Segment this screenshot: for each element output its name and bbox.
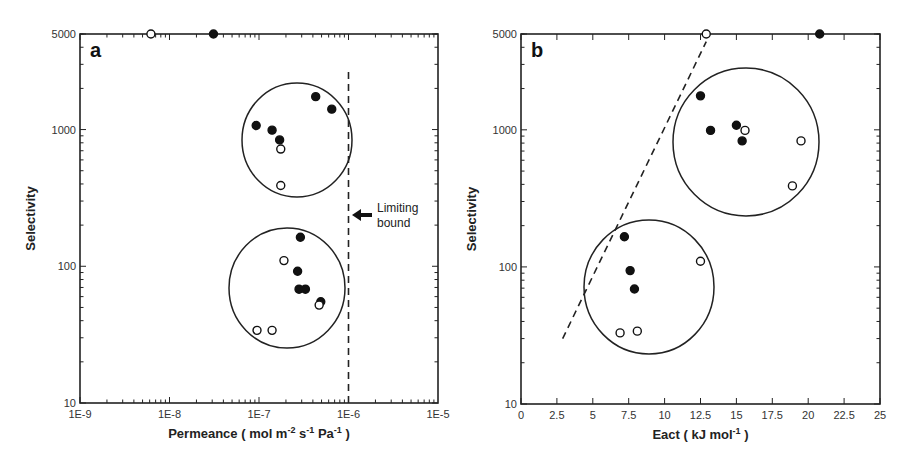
x-tick-label: 1E-7	[247, 408, 270, 420]
filled-data-point	[276, 136, 284, 144]
filled-data-point	[620, 233, 628, 241]
y-tick-label: 100	[499, 261, 517, 273]
x-tick-label: 2.5	[549, 409, 564, 421]
y-tick-label: 5000	[493, 28, 517, 40]
filled-data-point	[697, 92, 705, 100]
filled-data-point	[816, 30, 824, 38]
filled-data-point	[328, 105, 336, 113]
x-axis-title-part: s	[295, 426, 306, 441]
x-tick-label: 20	[802, 409, 814, 421]
cluster-circle	[229, 228, 345, 348]
annotation-limiting: Limiting	[377, 201, 418, 215]
x-axis-title-part: Permeance ( mol m	[168, 426, 287, 441]
open-data-point	[797, 137, 805, 145]
filled-data-point	[312, 93, 320, 101]
cluster-circle	[584, 220, 714, 354]
open-data-point	[633, 327, 641, 335]
x-tick-label: 5	[590, 409, 596, 421]
x-tick-label: 22.5	[833, 409, 854, 421]
x-tick-label: 12.5	[690, 409, 711, 421]
plot-frame	[521, 34, 880, 404]
filled-data-point	[268, 126, 276, 134]
x-tick-label: 17.5	[762, 409, 783, 421]
x-tick-label: 1E-8	[158, 408, 181, 420]
y-axis-title: Selectivity	[464, 186, 479, 251]
figure: 10100100050001E-91E-81E-71E-61E-5aSelect…	[0, 0, 911, 475]
filled-data-point	[738, 137, 746, 145]
y-tick-label: 100	[58, 260, 76, 272]
x-tick-label: 1E-5	[426, 408, 449, 420]
open-data-point	[277, 181, 285, 189]
filled-data-point	[732, 121, 740, 129]
y-tick-label: 5000	[52, 28, 76, 40]
x-tick-label: 0	[518, 409, 524, 421]
panel-letter: a	[90, 39, 102, 61]
open-data-point	[788, 182, 796, 190]
x-axis-title-sup: -1	[306, 425, 314, 435]
x-tick-label: 10	[658, 409, 670, 421]
open-data-point	[253, 326, 261, 334]
open-data-point	[315, 301, 323, 309]
arrow-head-icon	[352, 209, 361, 221]
panel-a-plot: 10100100050001E-91E-81E-71E-61E-5aSelect…	[23, 28, 450, 441]
annotation-bound: bound	[377, 216, 410, 230]
open-data-point	[697, 257, 705, 265]
filled-data-point	[301, 285, 309, 293]
x-tick-label: 1E-9	[68, 408, 91, 420]
x-axis-title: Permeance ( mol m-2 s-1 Pa-1 )	[168, 425, 350, 441]
cluster-circle	[242, 83, 352, 197]
x-tick-label: 7.5	[621, 409, 636, 421]
x-axis-title-sup: -1	[733, 426, 741, 436]
open-data-point	[616, 329, 624, 337]
panel-letter: b	[531, 39, 543, 61]
y-axis-title: Selectivity	[23, 186, 38, 251]
x-axis-title-part: )	[342, 426, 350, 441]
y-tick-label: 1000	[493, 124, 517, 136]
x-axis-title-part: )	[741, 427, 749, 442]
filled-data-point	[209, 30, 217, 38]
x-tick-label: 1E-6	[337, 408, 360, 420]
x-axis-title: Eact ( kJ mol-1 )	[652, 426, 748, 442]
filled-data-point	[296, 233, 304, 241]
open-data-point	[741, 126, 749, 134]
open-data-point	[277, 145, 285, 153]
open-data-point	[280, 257, 288, 265]
filled-data-point	[630, 285, 638, 293]
filled-data-point	[707, 126, 715, 134]
open-data-point	[147, 30, 155, 38]
open-data-point	[702, 30, 710, 38]
filled-data-point	[626, 267, 634, 275]
x-axis-title-part: Pa	[314, 426, 334, 441]
filled-data-point	[252, 122, 260, 130]
y-tick-label: 1000	[52, 124, 76, 136]
trend-dashed-line	[563, 42, 707, 339]
open-data-point	[268, 326, 276, 334]
panel-b-plot: 101001000500002.557.51012.51517.52022.52…	[464, 28, 886, 442]
y-tick-label: 10	[505, 398, 517, 410]
x-tick-label: 25	[874, 409, 886, 421]
x-axis-title-sup: -1	[334, 425, 342, 435]
filled-data-point	[294, 267, 302, 275]
x-tick-label: 15	[730, 409, 742, 421]
x-axis-title-sup: -2	[287, 425, 295, 435]
x-axis-title-part: Eact ( kJ mol	[652, 427, 732, 442]
